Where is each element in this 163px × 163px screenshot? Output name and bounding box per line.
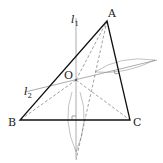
label-a: A bbox=[108, 8, 116, 19]
label-l2: l2 bbox=[24, 86, 32, 100]
construction-arcs bbox=[68, 59, 155, 152]
label-l1: l1 bbox=[71, 14, 79, 28]
label-o: O bbox=[64, 70, 73, 81]
label-c: C bbox=[133, 117, 141, 128]
line-l2 bbox=[25, 60, 157, 92]
point-o bbox=[75, 79, 77, 81]
dashed-segments bbox=[20, 21, 130, 160]
label-b: B bbox=[8, 117, 16, 128]
diagram: A B C O l1 l2 bbox=[0, 0, 163, 163]
construction-figure bbox=[0, 0, 163, 163]
